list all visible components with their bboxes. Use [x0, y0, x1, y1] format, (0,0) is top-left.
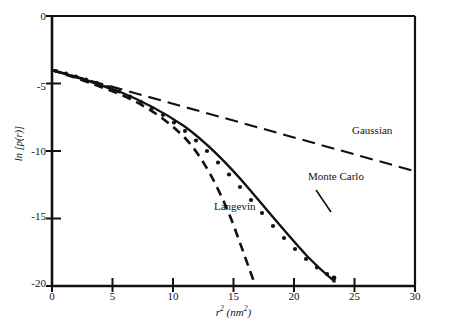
series-label-monte-carlo: Monte Carlo — [308, 170, 364, 182]
x-tick-6: 30 — [400, 291, 430, 302]
series-gaussian — [52, 70, 415, 171]
y-tick-0: 0 — [6, 11, 46, 22]
y-axis-ticks — [52, 16, 61, 286]
x-tick-1: 5 — [98, 291, 128, 302]
y-axis-title-text: ln [p(r)] — [13, 126, 24, 161]
series-label-langevin: Langevin — [214, 200, 256, 212]
plot-svg — [52, 16, 415, 286]
x-axis-title-text: r2 (nm2) — [216, 306, 251, 318]
plot-area — [52, 16, 415, 286]
series-monte-carlo — [52, 69, 336, 286]
series-label-gaussian: Gaussian — [352, 124, 392, 136]
x-tick-3: 15 — [219, 291, 249, 302]
x-tick-5: 25 — [340, 291, 370, 302]
series-langevin — [52, 70, 256, 286]
annotation-leaders — [316, 190, 331, 212]
monte-carlo-markers — [54, 69, 337, 281]
x-tick-0: 0 — [37, 291, 67, 302]
x-axis-tick-labels: 0 5 10 15 20 25 30 — [52, 291, 415, 307]
y-tick-3: -15 — [6, 211, 46, 222]
y-tick-4: -20 — [6, 278, 46, 289]
y-tick-1: -5 — [6, 81, 46, 92]
y-axis-title: ln [p(r)] — [13, 104, 24, 184]
axis-frame — [52, 16, 415, 286]
x-tick-4: 20 — [279, 291, 309, 302]
x-axis-title: r2 (nm2) — [52, 306, 415, 318]
x-tick-2: 10 — [158, 291, 188, 302]
figure-canvas: 0 -5 -10 -15 -20 ln [p(r)] — [0, 0, 450, 332]
